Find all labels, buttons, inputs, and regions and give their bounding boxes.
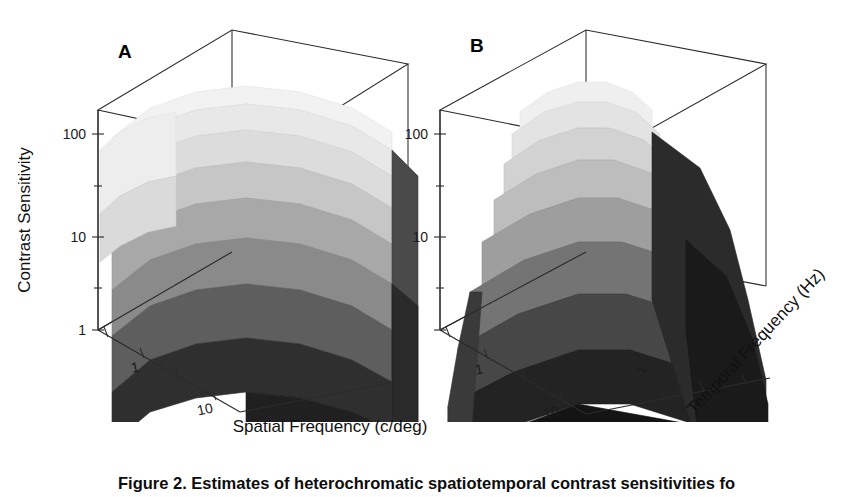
- panel-a-surface: [100, 86, 418, 444]
- y-axis-title: Contrast Sensitivity: [15, 147, 34, 293]
- caption-text: Estimates of heterochromatic spatiotempo…: [191, 474, 735, 492]
- panel-label-a: A: [118, 41, 132, 62]
- panel-b-y-tick-10: 10: [412, 229, 428, 245]
- y-tick-100: 100: [63, 126, 87, 142]
- y-tick-10: 10: [70, 229, 86, 245]
- x-axis-title: Spatial Frequency (c/deg): [233, 417, 428, 436]
- y-tick-1: 1: [78, 322, 86, 338]
- panel-label-b: B: [470, 35, 484, 56]
- figure-caption: Figure 2. Estimates of heterochromatic s…: [0, 471, 848, 497]
- figure-svg: 100 10 1 1 10: [0, 0, 848, 497]
- caption-number: Figure 2.: [118, 474, 187, 492]
- panel-b-y-tick-100: 100: [405, 126, 429, 142]
- figure-container: 100 10 1 1 10: [0, 0, 848, 497]
